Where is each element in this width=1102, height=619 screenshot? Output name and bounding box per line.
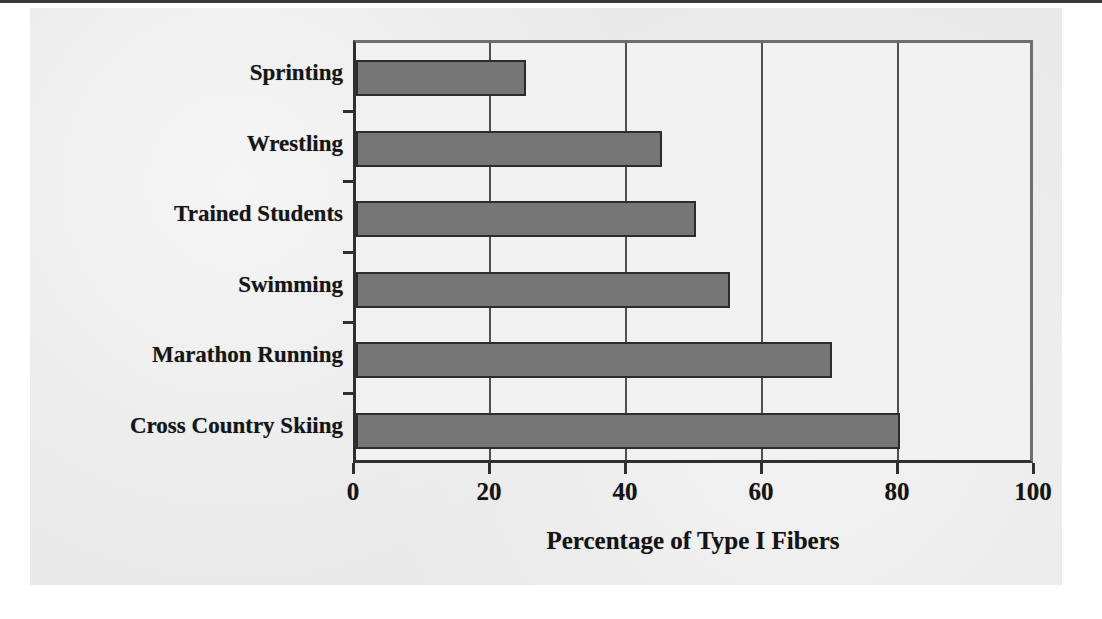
bar[interactable] — [356, 342, 832, 378]
bar-row — [356, 325, 1030, 396]
bar-chart: SprintingWrestlingTrained StudentsSwimmi… — [0, 0, 1102, 619]
x-axis-tick-60 — [760, 463, 763, 474]
bar-row — [356, 184, 1030, 255]
x-axis-tick-label: 0 — [313, 478, 393, 506]
y-axis-tick — [343, 251, 354, 254]
x-axis-tick-40 — [624, 463, 627, 474]
x-axis-tick-0 — [352, 463, 355, 474]
category-label: Swimming — [23, 272, 343, 298]
bar[interactable] — [356, 60, 526, 96]
x-axis-tick-80 — [896, 463, 899, 474]
x-axis-tick-label: 40 — [585, 478, 665, 506]
y-axis-tick — [343, 110, 354, 113]
category-label: Sprinting — [23, 60, 343, 86]
x-axis-tick-label: 60 — [721, 478, 801, 506]
bar-row — [356, 396, 1030, 467]
plot-area — [353, 40, 1033, 463]
y-axis-tick — [343, 321, 354, 324]
bar[interactable] — [356, 131, 662, 167]
bar-row — [356, 255, 1030, 326]
bar-row — [356, 43, 1030, 114]
category-label: Marathon Running — [23, 342, 343, 368]
category-label: Wrestling — [23, 131, 343, 157]
bar[interactable] — [356, 201, 696, 237]
x-axis-tick-label: 100 — [993, 478, 1073, 506]
x-axis-tick-label: 80 — [857, 478, 937, 506]
y-axis-tick — [343, 392, 354, 395]
bar[interactable] — [356, 413, 900, 449]
x-axis-tick-20 — [488, 463, 491, 474]
category-label: Trained Students — [23, 201, 343, 227]
bar[interactable] — [356, 272, 730, 308]
x-axis-title: Percentage of Type I Fibers — [353, 527, 1033, 555]
y-axis-tick — [343, 180, 354, 183]
x-axis-tick-label: 20 — [449, 478, 529, 506]
x-axis-tick-100 — [1032, 463, 1035, 474]
category-label: Cross Country Skiing — [23, 413, 343, 439]
bar-row — [356, 114, 1030, 185]
